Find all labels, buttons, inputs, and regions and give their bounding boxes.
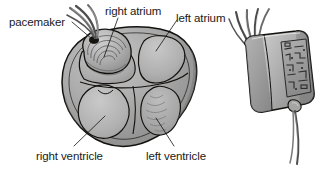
label-left-ventricle: left ventricle <box>146 150 206 162</box>
label-right-ventricle: right ventricle <box>36 150 103 162</box>
pacemaker-heart-illustration: pacemaker right atrium left atrium right… <box>0 0 326 172</box>
right-atrial-appendage <box>83 29 131 75</box>
label-right-atrium: right atrium <box>105 5 161 17</box>
diagram-canvas: pacemaker right atrium left atrium right… <box>0 0 326 172</box>
label-pacemaker: pacemaker <box>9 16 65 28</box>
label-left-atrium: left atrium <box>176 12 225 24</box>
chamber-right-ventricle <box>78 85 129 138</box>
